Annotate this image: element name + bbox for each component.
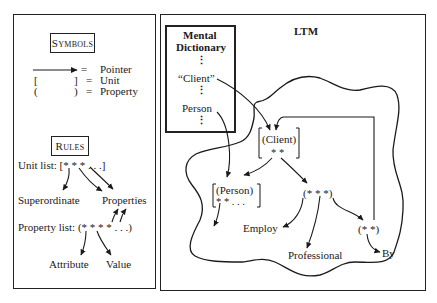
property-pair: (* *) xyxy=(358,223,379,235)
ltm-network xyxy=(0,0,437,303)
person-unit-stars: * * . . . xyxy=(216,196,245,207)
client-unit-stars: * * xyxy=(271,147,284,158)
by-label: By xyxy=(382,247,395,259)
professional-label: Professional xyxy=(288,249,342,261)
employ-label: Employ xyxy=(243,222,278,234)
client-unit-label: (Client) xyxy=(262,133,296,145)
property-triple: (* * *) xyxy=(303,187,332,199)
person-unit-label: (Person) xyxy=(216,184,253,196)
